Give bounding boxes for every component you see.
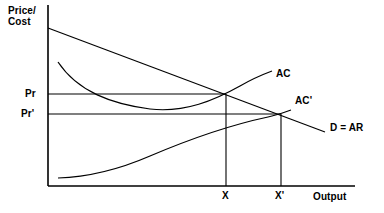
- demand-curve-label: D = AR: [330, 122, 363, 133]
- x-tick-label-x-prime: X': [275, 190, 284, 201]
- average-cost-prime-curve-label: AC': [295, 95, 312, 106]
- y-axis-label-line1: Price/: [8, 5, 36, 16]
- demand-average-revenue-curve: [48, 28, 325, 132]
- x-tick-label-x: X: [222, 190, 229, 201]
- x-axis-label: Output: [313, 191, 346, 202]
- diagram-canvas: [0, 0, 384, 213]
- y-axis-label: Price/ Cost: [8, 5, 36, 27]
- average-cost-prime-curve: [58, 110, 291, 178]
- price-cost-output-diagram: Price/ Cost Output Pr Pr' X X' AC AC' D …: [0, 0, 384, 213]
- y-axis-label-line2: Cost: [8, 16, 36, 27]
- average-cost-curve: [58, 62, 272, 110]
- average-cost-curve-label: AC: [276, 68, 291, 79]
- y-tick-label-pr-prime: Pr': [21, 108, 34, 119]
- y-tick-label-pr: Pr: [25, 88, 36, 99]
